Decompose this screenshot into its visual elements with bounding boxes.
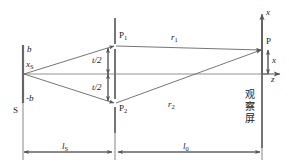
optics-diagram-figure: xS b -b S P1 P2 t/2 t/2 r1 r2 P x x z 观 … <box>0 0 289 167</box>
label-distance-l0: l0 <box>183 142 189 151</box>
label-half-separation-top: t/2 <box>92 56 102 65</box>
ray-r2 <box>116 50 261 103</box>
ray-r1 <box>116 46 261 50</box>
label-ray-r1: r1 <box>171 33 178 42</box>
label-distance-ls: lS <box>62 142 68 151</box>
label-slit-p1: P1 <box>119 31 127 40</box>
label-source-screen: S <box>13 106 18 115</box>
label-field-offset-x: x <box>272 56 276 65</box>
label-axis-x: x <box>266 8 270 17</box>
dimension-extension-lines <box>23 103 262 160</box>
label-aperture-top: b <box>27 45 32 54</box>
label-axis-z: z <box>271 75 275 84</box>
diagram-canvas <box>0 0 289 167</box>
label-half-separation-bottom: t/2 <box>92 83 102 92</box>
label-observation-screen: 观 察 屏 <box>244 89 256 125</box>
label-field-point-p: P <box>266 37 271 46</box>
label-aperture-bottom: -b <box>26 94 34 103</box>
label-source-height: xS <box>26 60 34 69</box>
label-ray-r2: r2 <box>168 100 175 109</box>
label-slit-p2: P2 <box>119 104 127 113</box>
